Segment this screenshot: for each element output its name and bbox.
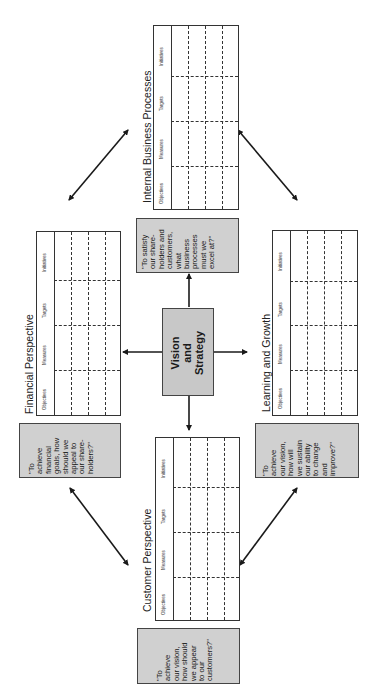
learning-table: Objectives Measures Targets Initiatives	[272, 230, 358, 416]
learning-question: "To achieve our vision, how will we sust…	[262, 440, 338, 476]
arrow-learning-customer	[240, 488, 297, 565]
arrow-internal-learning	[238, 130, 297, 200]
col-objectives: Objectives	[159, 183, 164, 204]
col-targets: Targets	[161, 509, 166, 524]
customer-title: Customer Perspective	[141, 509, 153, 612]
col-targets: Targets	[42, 303, 47, 318]
internal-title: Internal Business Processes	[141, 71, 153, 203]
col-targets: Targets	[159, 96, 164, 111]
vision-strategy-label: Vision and Strategy	[169, 322, 205, 384]
learning-question-box: "To achieve our vision, how will we sust…	[255, 423, 359, 478]
customer-question-box: "To achieve our vision, how should we ap…	[137, 628, 240, 684]
financial-question-box: "To achieve financial goals, how should …	[19, 423, 121, 478]
customer-table: Objectives Measures Targets Initiatives	[155, 437, 240, 621]
col-measures: Measures	[278, 344, 283, 364]
col-measures: Measures	[42, 345, 47, 365]
financial-question: "To achieve financial goals, how should …	[28, 438, 95, 474]
internal-table: Objectives Measures Targets Initiatives	[153, 25, 239, 210]
col-targets: Targets	[278, 302, 283, 317]
financial-title: Financial Perspective	[23, 314, 35, 414]
col-objectives: Objectives	[161, 594, 166, 615]
col-initiatives: Initiatives	[42, 253, 47, 272]
internal-question: "To satisfy our share- holders and custo…	[141, 229, 217, 269]
col-initiatives: Initiatives	[278, 252, 283, 271]
arrow-internal-financial	[69, 130, 128, 200]
col-measures: Measures	[161, 550, 166, 570]
vision-strategy-box: Vision and Strategy	[162, 308, 214, 396]
col-measures: Measures	[159, 139, 164, 159]
col-objectives: Objectives	[278, 388, 283, 409]
financial-table: Objectives Measures Targets Initiatives	[36, 231, 121, 416]
col-objectives: Objectives	[42, 389, 47, 410]
col-initiatives: Initiatives	[159, 47, 164, 66]
learning-title: Learning and Growth	[260, 314, 272, 412]
internal-question-box: "To satisfy our share- holders and custo…	[136, 218, 239, 273]
customer-question: "To achieve our vision, how should we ap…	[156, 639, 215, 681]
arrow-financial-customer	[70, 488, 128, 565]
col-initiatives: Initiatives	[161, 459, 166, 478]
